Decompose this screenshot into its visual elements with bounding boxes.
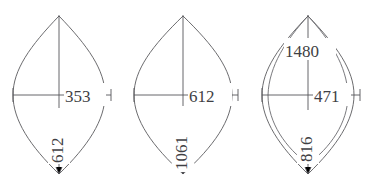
vertical-arrowhead-right	[305, 167, 311, 174]
figure-1: 353 612	[13, 16, 111, 174]
horizontal-dimension-label-right: 471	[314, 87, 340, 106]
technical-drawing-canvas: 353 612 612 1061	[0, 0, 366, 191]
vertical-dimension-label-middle: 1061	[172, 136, 191, 170]
horizontal-dimension-label-left: 353	[65, 87, 91, 106]
arc-dimension-label-right: 1480	[285, 42, 319, 61]
drawing-svg: 353 612 612 1061	[0, 0, 366, 191]
vertical-dimension-label-left: 612	[48, 138, 67, 164]
horizontal-dimension-label-middle: 612	[189, 87, 215, 106]
figure-2: 612 1061	[134, 16, 238, 174]
vertical-dimension-label-right: 816	[297, 137, 316, 163]
vertical-arrowhead-left	[56, 167, 62, 174]
figure-3: 1480 471 816	[262, 16, 360, 174]
